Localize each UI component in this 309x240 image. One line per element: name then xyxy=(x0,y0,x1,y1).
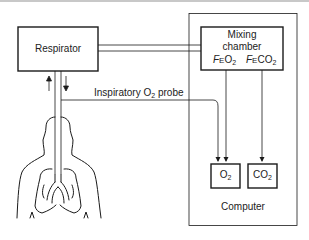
o2-analyzer-label: O2 xyxy=(211,170,240,180)
probe-line xyxy=(61,100,218,161)
feo2-label: FEO2 xyxy=(213,55,236,65)
patient-tubes xyxy=(55,71,61,175)
flow-arrows xyxy=(47,76,69,91)
mixing-chamber-label-line1: Mixing xyxy=(201,30,283,40)
mixing-chamber-label-line2: chamber xyxy=(201,42,283,52)
respirator-label: Respirator xyxy=(18,44,98,54)
feco2-label: FECO2 xyxy=(246,55,276,65)
co2-analyzer-label: CO2 xyxy=(248,170,277,180)
computer-label: Computer xyxy=(189,202,297,212)
patient-body-icon xyxy=(17,117,101,218)
expired-gas-tube xyxy=(98,45,201,51)
inspiratory-probe-label: Inspiratory O2 probe xyxy=(94,88,184,98)
